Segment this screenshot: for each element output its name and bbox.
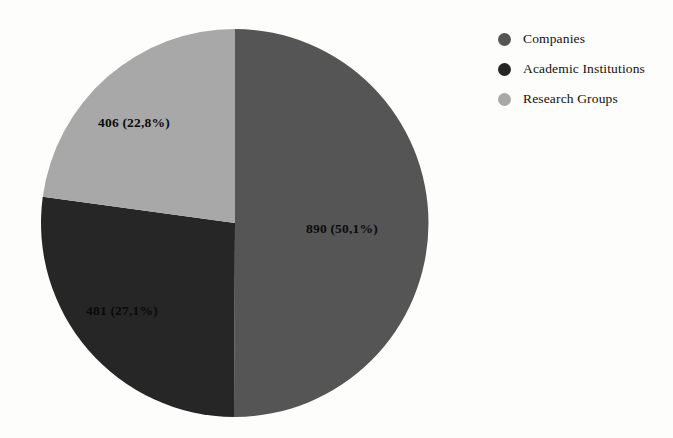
circle-marker-icon [498,33,511,46]
slice-label-companies: 890 (50,1%) [306,221,378,237]
pie-chart-figure: 890 (50,1%) 481 (27,1%) 406 (22,8%) Comp… [0,0,673,438]
slice-label-academic-institutions: 481 (27,1%) [86,303,158,319]
circle-marker-icon [498,63,511,76]
legend-item-academic-institutions[interactable]: Academic Institutions [498,54,670,84]
slice-label-research-groups: 406 (22,8%) [98,115,170,131]
legend-item-research-groups[interactable]: Research Groups [498,84,670,114]
chart-legend: Companies Academic Institutions Research… [498,24,670,114]
circle-marker-icon [498,93,511,106]
legend-label-research-groups: Research Groups [523,91,618,107]
legend-label-academic-institutions: Academic Institutions [523,61,645,77]
legend-item-companies[interactable]: Companies [498,24,670,54]
legend-label-companies: Companies [523,31,585,47]
